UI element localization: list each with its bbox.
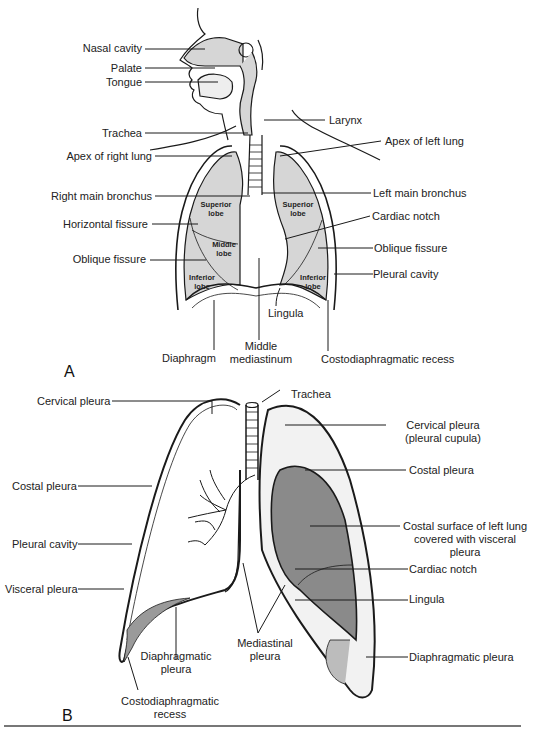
lobe-right-middle: Middlelobe: [208, 240, 240, 258]
trachea-b: [246, 405, 258, 480]
label-line: pleura: [450, 546, 481, 558]
bronchial-tree: [188, 470, 255, 545]
label-visceral-pleura: Visceral pleura: [5, 583, 78, 596]
label-tongue: Tongue: [20, 76, 142, 89]
pharynx: [240, 52, 257, 135]
lobe-text: lobe: [290, 209, 305, 218]
label-middle-mediastinum-line1: Middle: [245, 340, 277, 352]
label-larynx: Larynx: [329, 114, 362, 127]
label-palate: Palate: [20, 62, 142, 75]
label-line: Cervical pleura: [406, 419, 479, 431]
panel-letter-a: A: [64, 363, 75, 381]
label-diaphragmatic-pleura-b-right: Diaphragmatic pleura: [409, 651, 514, 664]
label-costal-pleura-b-left: Costal pleura: [12, 480, 77, 493]
label-line: Mediastinal: [237, 637, 293, 649]
panel-letter-b: B: [62, 707, 73, 725]
label-costodiaphragmatic-recess-a: Costodiaphragmatic recess: [321, 353, 454, 366]
label-diaphragmatic-pleura-b-bottom: Diaphragmaticpleura: [136, 650, 216, 676]
lobe-text: Superior: [201, 200, 232, 209]
label-pleural-cavity-b: Pleural cavity: [12, 538, 77, 551]
nasal-cavity-shape: [184, 38, 243, 66]
label-mediastinal-pleura: Mediastinalpleura: [230, 637, 300, 663]
label-horizontal-fissure: Horizontal fissure: [20, 218, 148, 231]
label-right-main-bronchus: Right main bronchus: [20, 190, 152, 203]
label-lingula-a: Lingula: [268, 307, 303, 320]
label-pleural-cavity-a: Pleural cavity: [373, 268, 438, 281]
lobe-text: Inferior: [300, 273, 326, 282]
lobe-text: lobe: [194, 282, 209, 291]
lobe-text: Inferior: [189, 273, 215, 282]
lobe-right-superior: Superiorlobe: [198, 200, 234, 218]
label-line: pleura: [250, 650, 281, 662]
label-apex-right-lung: Apex of right lung: [20, 150, 152, 163]
label-cervical-pleura-b-right: Cervical pleura(pleural cupula): [388, 419, 498, 445]
face-profile: [180, 8, 228, 140]
label-line: Costal surface of left lung: [403, 520, 527, 532]
label-line: covered with visceral: [414, 533, 516, 545]
label-middle-mediastinum: Middlemediastinum: [226, 340, 296, 366]
label-diaphragm: Diaphragm: [162, 352, 216, 365]
bottom-rule-divider: [4, 725, 521, 727]
label-line: recess: [154, 708, 186, 720]
label-cardiac-notch-b: Cardiac notch: [409, 563, 477, 576]
label-line: Costodiaphragmatic: [121, 695, 219, 707]
label-trachea-a: Trachea: [20, 127, 142, 140]
label-cervical-pleura-b-left: Cervical pleura: [37, 395, 110, 408]
trachea-a: [248, 135, 262, 195]
label-nasal-cavity: Nasal cavity: [20, 42, 142, 55]
label-line: (pleural cupula): [405, 432, 481, 444]
lobe-text: lobe: [216, 249, 231, 258]
lobe-right-inferior: Inferiorlobe: [185, 273, 219, 291]
label-line: Diaphragmatic: [141, 650, 212, 662]
label-trachea-b: Trachea: [291, 388, 331, 401]
label-costal-surface-left-lung: Costal surface of left lungcovered with …: [400, 520, 530, 559]
lobe-text: lobe: [208, 209, 223, 218]
label-costal-pleura-b-right: Costal pleura: [409, 464, 474, 477]
lobe-text: lobe: [305, 282, 320, 291]
lobe-text: Middle: [212, 240, 236, 249]
label-lingula-b: Lingula: [409, 593, 444, 606]
label-left-main-bronchus: Left main bronchus: [373, 187, 467, 200]
label-oblique-fissure-a-right: Oblique fissure: [374, 242, 447, 255]
anatomy-illustration: [0, 0, 533, 741]
lobe-left-superior: Superiorlobe: [280, 200, 316, 218]
label-middle-mediastinum-line2: mediastinum: [230, 353, 292, 365]
lobe-left-inferior: Inferiorlobe: [296, 273, 330, 291]
label-apex-left-lung: Apex of left lung: [385, 135, 464, 148]
tongue-shape: [198, 74, 233, 99]
lobe-text: Superior: [283, 200, 314, 209]
label-oblique-fissure-a-left: Oblique fissure: [20, 253, 146, 266]
label-line: pleura: [161, 663, 192, 675]
label-costodiaphragmatic-recess-b: Costodiaphragmaticrecess: [115, 695, 225, 721]
label-cardiac-notch-a: Cardiac notch: [372, 210, 440, 223]
